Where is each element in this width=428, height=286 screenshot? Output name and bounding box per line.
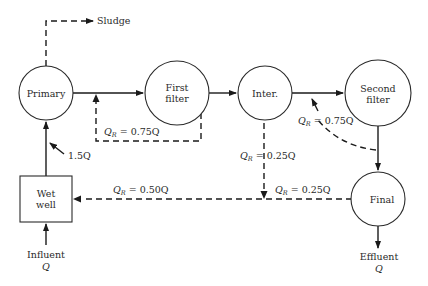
recycle-second-filter-pointer (312, 99, 318, 111)
node-first-filter: First filter (145, 61, 209, 125)
flow-value: = 0.75Q (117, 126, 160, 137)
node-primary: Primary (19, 66, 73, 120)
node-final: Final (351, 172, 405, 226)
flow-label-recycle-wetwell: QR = 0.50Q (113, 184, 169, 197)
flow-value: = 0.75Q (311, 115, 354, 126)
flow-value: = 0.50Q (126, 184, 169, 195)
node-final-label: Final (370, 194, 394, 205)
q-symbol: Q (275, 184, 283, 195)
node-wet-well: Wet well (20, 176, 72, 222)
recycle-wetwell-arrowhead (73, 196, 81, 203)
influent-label: Influent (27, 249, 65, 260)
node-inter: Inter. (238, 66, 292, 120)
node-first-filter-label-1: First (166, 82, 189, 93)
effluent-symbol: Q (375, 263, 383, 274)
node-second-filter: Second filter (345, 60, 411, 126)
flow-label-1-5q: 1.5Q (68, 150, 91, 161)
q-symbol: Q (298, 115, 306, 126)
effluent-label: Effluent (360, 251, 399, 262)
node-inter-label: Inter. (252, 88, 278, 99)
sludge-label: Sludge (97, 15, 131, 26)
flow-value: = 0.25Q (288, 184, 331, 195)
node-wet-well-label-1: Wet (37, 188, 56, 199)
node-wet-well-label-2: well (36, 199, 56, 210)
q-symbol: Q (240, 150, 248, 161)
flow-label-recycle-first: QR = 0.75Q (104, 126, 160, 139)
node-primary-label: Primary (27, 88, 66, 99)
flow-value: = 0.25Q (253, 150, 296, 161)
q-symbol: Q (104, 126, 112, 137)
flow-label-recycle-inter: QR = 0.25Q (240, 150, 296, 163)
recycle-first-filter-arrowhead (93, 94, 100, 102)
sludge-line (46, 21, 93, 66)
influent-symbol: Q (42, 261, 50, 272)
q-symbol: Q (113, 184, 121, 195)
node-second-filter-label-1: Second (360, 83, 395, 94)
recycle-inter-arrowhead (261, 191, 268, 199)
node-first-filter-label-2: filter (165, 93, 189, 104)
flow-label-recycle-second: QR = 0.75Q (298, 115, 354, 128)
flow-label-recycle-final: QR = 0.25Q (275, 184, 331, 197)
trickling-filter-flow-diagram: Primary First filter Inter. Second filte… (0, 0, 428, 286)
flow-pointer-1-5q (50, 143, 64, 154)
node-second-filter-label-2: filter (366, 94, 390, 105)
